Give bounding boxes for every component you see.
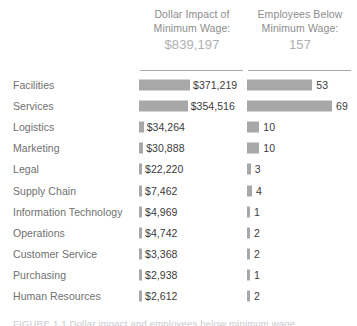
bar-dollar-impact [139,79,190,90]
table-row: Supply Chain$7,4624 [0,180,357,201]
bar-value-employees: 1 [254,206,260,218]
bar-value-employees: 2 [254,248,260,260]
dollar-header-line-2: Minimum Wage: [138,22,246,36]
bar-value-dollar-impact: $354,516 [191,100,235,112]
bar-employees [247,291,250,302]
minimum-wage-figure: Dollar Impact of Minimum Wage: $839,197 … [0,0,357,326]
bar-value-employees: 1 [254,269,260,281]
bar-employees [247,121,259,132]
bar-employees [247,164,251,175]
bar-employees [247,249,250,260]
row-label: Customer Service [13,248,97,260]
row-label: Services [13,100,54,112]
bar-dollar-impact [139,206,142,217]
bar-value-dollar-impact: $7,462 [145,185,177,197]
bar-cell-dollar-impact: $4,742 [139,222,249,243]
row-label: Purchasing [13,269,66,281]
bar-value-dollar-impact: $2,938 [145,269,177,281]
divider-employees-column [248,70,351,71]
row-label: Logistics [13,121,54,133]
divider-dollar-column [140,70,243,71]
bar-cell-employees: 1 [247,265,357,286]
table-row: Legal$22,2203 [0,159,357,180]
bar-cell-dollar-impact: $7,462 [139,180,249,201]
bar-dollar-impact [139,121,144,132]
bar-cell-employees: 3 [247,159,357,180]
bar-cell-employees: 4 [247,180,357,201]
table-row: Human Resources$2,6122 [0,286,357,307]
figure-caption-cutoff: FIGURE 1.1 Dollar impact and employees b… [13,318,343,326]
bar-value-dollar-impact: $2,612 [145,290,177,302]
bar-employees [247,100,332,111]
bar-cell-employees: 69 [247,95,357,116]
data-rows: Facilities$371,21953Services$354,51669Lo… [0,74,357,307]
bar-dollar-impact [139,100,188,111]
bar-cell-employees: 2 [247,286,357,307]
bar-cell-dollar-impact: $3,368 [139,244,249,265]
bar-cell-dollar-impact: $2,612 [139,286,249,307]
bar-cell-employees: 53 [247,74,357,95]
bar-value-dollar-impact: $371,219 [193,79,237,91]
bar-dollar-impact [139,185,142,196]
bar-employees [247,270,250,281]
bar-cell-dollar-impact: $354,516 [139,95,249,116]
bar-dollar-impact [139,270,142,281]
column-headers: Dollar Impact of Minimum Wage: $839,197 … [0,8,357,62]
employees-header-line-2: Minimum Wage: [246,22,354,36]
dollar-header-total: $839,197 [138,35,246,53]
bar-value-dollar-impact: $34,264 [147,121,185,133]
table-row: Purchasing$2,9381 [0,265,357,286]
bar-value-dollar-impact: $3,368 [145,248,177,260]
bar-value-dollar-impact: $30,888 [146,142,184,154]
bar-cell-dollar-impact: $30,888 [139,138,249,159]
table-row: Marketing$30,88810 [0,138,357,159]
bar-employees [247,143,259,154]
bar-value-employees: 69 [336,100,348,112]
table-row: Information Technology$4,9691 [0,201,357,222]
bar-cell-dollar-impact: $2,938 [139,265,249,286]
bar-dollar-impact [139,249,142,260]
bar-value-employees: 2 [254,290,260,302]
bar-value-employees: 4 [256,185,262,197]
bar-cell-dollar-impact: $4,969 [139,201,249,222]
table-row: Facilities$371,21953 [0,74,357,95]
dollar-header-line-1: Dollar Impact of [138,8,246,22]
bar-employees [247,79,312,90]
bar-employees [247,185,252,196]
bar-value-dollar-impact: $4,742 [145,227,177,239]
bar-value-employees: 53 [316,79,328,91]
bar-cell-employees: 10 [247,138,357,159]
bar-cell-employees: 2 [247,244,357,265]
row-label: Information Technology [13,206,122,218]
bar-employees [247,227,250,238]
bar-dollar-impact [139,227,142,238]
bar-cell-employees: 10 [247,116,357,137]
row-label: Supply Chain [13,185,76,197]
row-label: Facilities [13,79,54,91]
bar-cell-dollar-impact: $22,220 [139,159,249,180]
bar-value-dollar-impact: $22,220 [145,163,183,175]
bar-dollar-impact [139,143,143,154]
column-header-dollar-impact: Dollar Impact of Minimum Wage: $839,197 [138,8,246,53]
table-row: Operations$4,7422 [0,222,357,243]
column-header-employees-below: Employees Below Minimum Wage: 157 [246,8,354,53]
bar-value-employees: 3 [255,163,261,175]
employees-header-line-1: Employees Below [246,8,354,22]
bar-value-employees: 10 [263,121,275,133]
bar-value-dollar-impact: $4,969 [145,206,177,218]
table-row: Customer Service$3,3682 [0,244,357,265]
row-label: Operations [13,227,65,239]
table-row: Logistics$34,26410 [0,116,357,137]
bar-cell-employees: 1 [247,201,357,222]
bar-cell-dollar-impact: $371,219 [139,74,249,95]
bar-dollar-impact [139,164,142,175]
row-label: Marketing [13,142,60,154]
bar-value-employees: 10 [263,142,275,154]
employees-header-total: 157 [246,35,354,53]
bar-cell-dollar-impact: $34,264 [139,116,249,137]
row-label: Human Resources [13,290,101,302]
bar-employees [247,206,250,217]
row-label: Legal [13,163,39,175]
bar-cell-employees: 2 [247,222,357,243]
bar-value-employees: 2 [254,227,260,239]
